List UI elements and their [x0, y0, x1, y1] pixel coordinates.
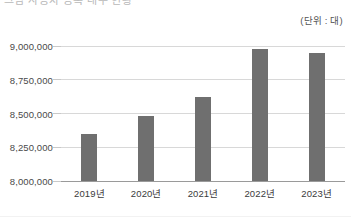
x-axis-label: 2023년	[301, 186, 332, 200]
y-axis-label: 8,500,000	[10, 108, 53, 119]
y-axis-tick	[53, 181, 61, 182]
y-axis-label: 8,250,000	[10, 142, 53, 153]
chart-plot-area: 8,000,0008,250,0008,500,0008,750,0009,00…	[61, 46, 345, 181]
x-axis-label: 2019년	[74, 186, 105, 200]
bar	[309, 53, 325, 181]
gridline	[61, 46, 345, 47]
page-title-strip: 그림 자동차 등록 대수 현황	[0, 0, 351, 9]
bottom-divider	[0, 216, 351, 217]
y-axis-label: 8,000,000	[10, 176, 53, 187]
bar	[138, 116, 154, 181]
gridline	[61, 79, 345, 80]
y-axis-label: 8,750,000	[10, 74, 53, 85]
y-axis-tick	[53, 46, 61, 47]
bar	[252, 49, 268, 181]
x-axis-label: 2022년	[244, 186, 275, 200]
y-axis-tick	[53, 147, 61, 148]
page-title: 그림 자동차 등록 대수 현황	[4, 0, 132, 7]
y-axis-tick	[53, 79, 61, 80]
x-axis-label: 2021년	[188, 186, 219, 200]
bar-chart: 8,000,0008,250,0008,500,0008,750,0009,00…	[0, 36, 351, 196]
bar	[81, 134, 97, 181]
bar	[195, 97, 211, 181]
y-axis-label: 9,000,000	[10, 41, 53, 52]
y-axis-tick	[53, 113, 61, 114]
chart-unit-note: (단위 : 대)	[300, 13, 343, 27]
x-axis-label: 2020년	[131, 186, 162, 200]
